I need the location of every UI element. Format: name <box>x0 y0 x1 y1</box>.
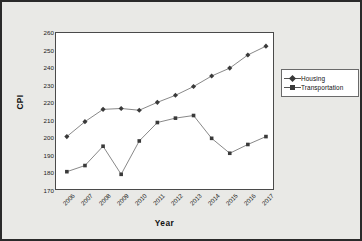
y-tick-240: 240 <box>43 64 54 71</box>
data-point-housing-2017 <box>263 44 268 49</box>
data-point-housing-2008 <box>101 107 106 112</box>
data-point-transportation-2008 <box>101 144 105 148</box>
x-tick-2017: 2017 <box>260 192 275 207</box>
legend-marker-transportation <box>284 83 301 92</box>
data-point-housing-2011 <box>155 100 160 105</box>
x-tick-2010: 2010 <box>134 192 149 207</box>
y-tick-170: 170 <box>43 187 54 194</box>
series-line-transportation <box>67 116 266 175</box>
legend-label-transportation: Transportation <box>301 84 343 91</box>
x-tick-2006: 2006 <box>61 192 76 207</box>
x-axis-tick-labels: 2006200720082009201020112012201320142015… <box>55 192 274 220</box>
plot-svg <box>56 33 275 191</box>
x-tick-2012: 2012 <box>170 192 185 207</box>
chart-window: CPI 170180190200210220230240250260 20062… <box>0 0 362 241</box>
data-point-housing-2009 <box>119 106 124 111</box>
y-tick-200: 200 <box>43 134 54 141</box>
x-tick-2011: 2011 <box>152 192 166 206</box>
data-point-transportation-2015 <box>228 151 232 155</box>
data-point-transportation-2006 <box>65 170 69 174</box>
y-tick-180: 180 <box>43 169 54 176</box>
y-tick-210: 210 <box>43 116 54 123</box>
x-tick-2014: 2014 <box>206 192 221 207</box>
data-point-transportation-2010 <box>137 139 141 143</box>
data-point-transportation-2013 <box>192 114 196 118</box>
y-tick-220: 220 <box>43 99 54 106</box>
series-line-housing <box>67 46 266 136</box>
plot-area <box>55 32 274 190</box>
x-tick-2015: 2015 <box>224 192 239 207</box>
data-point-housing-2013 <box>191 84 196 89</box>
data-point-housing-2012 <box>173 93 178 98</box>
y-tick-260: 260 <box>43 29 54 36</box>
data-point-transportation-2016 <box>246 143 250 147</box>
data-point-transportation-2012 <box>174 116 178 120</box>
legend-item-housing[interactable]: Housing <box>284 74 355 83</box>
x-tick-2008: 2008 <box>97 192 112 207</box>
y-tick-250: 250 <box>43 46 54 53</box>
y-tick-230: 230 <box>43 81 54 88</box>
x-tick-2013: 2013 <box>188 192 203 207</box>
y-axis-title: CPI <box>15 94 25 109</box>
data-point-transportation-2009 <box>119 173 123 177</box>
legend-item-transportation[interactable]: Transportation <box>284 83 355 92</box>
y-tick-190: 190 <box>43 151 54 158</box>
data-point-housing-2014 <box>209 73 214 78</box>
data-point-transportation-2017 <box>264 135 268 139</box>
data-point-transportation-2007 <box>83 164 87 168</box>
chart-paper: CPI 170180190200210220230240250260 20062… <box>6 6 356 235</box>
x-tick-2009: 2009 <box>115 192 130 207</box>
data-point-transportation-2011 <box>156 121 160 125</box>
chart-legend: Housing Transportation <box>281 69 359 97</box>
x-axis-title: Year <box>55 218 274 228</box>
legend-label-housing: Housing <box>301 75 325 82</box>
x-tick-2007: 2007 <box>79 192 94 207</box>
legend-marker-housing <box>284 74 301 83</box>
data-point-housing-2010 <box>137 108 142 113</box>
x-tick-2016: 2016 <box>242 192 257 207</box>
y-axis-tick-labels: 170180190200210220230240250260 <box>32 28 54 194</box>
data-point-transportation-2014 <box>210 137 214 141</box>
